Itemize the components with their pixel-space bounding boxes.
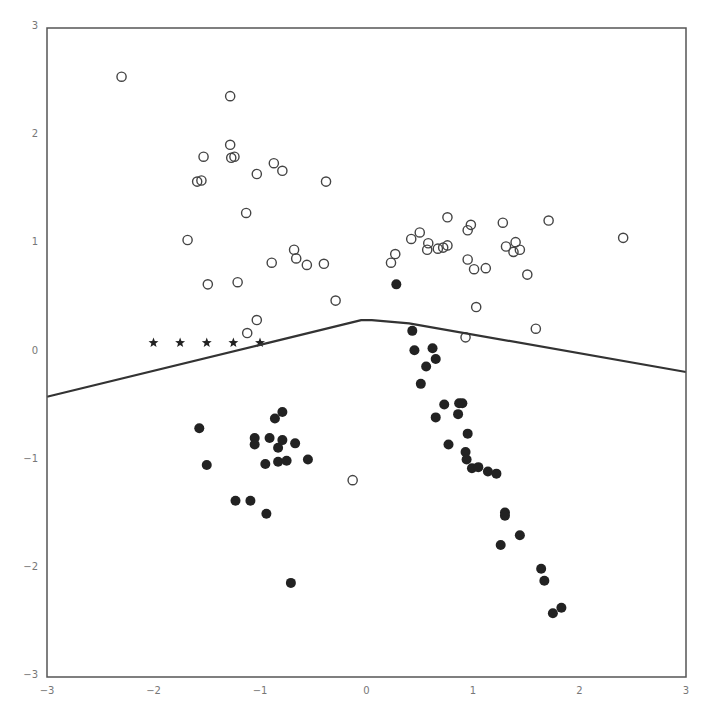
open-circle-point [443,213,452,222]
open-circle-point [463,255,472,264]
x-tick-label: −1 [253,685,268,696]
open-circle-point [230,152,239,161]
filled-circle-point [462,455,472,465]
filled-circle-point [439,399,449,409]
y-tick-label: −1 [23,453,38,464]
filled-circle-point [407,326,417,336]
filled-circle-point [473,462,483,472]
y-tick-label: 0 [32,345,38,356]
open-circle-point [391,249,400,258]
x-tick-label: 1 [470,685,476,696]
filled-circle-point [194,423,204,433]
open-circle-point [498,218,507,227]
open-circle-point [415,228,424,237]
open-circle-point [199,152,208,161]
filled-circle-point [391,279,401,289]
open-circle-point [481,264,490,273]
open-circle-point [267,258,276,267]
filled-circle-point [453,409,463,419]
open-circle-point [226,92,235,101]
scatter-chart: −3−2−10123 −3−2−10123 [0,0,714,717]
filled-circle-point [282,456,292,466]
filled-circle-point [457,398,467,408]
filled-circle-point [265,433,275,443]
open-circle-point [515,245,524,254]
filled-circle-point [548,608,558,618]
filled-circle-point [421,362,431,372]
open-circle-point [407,234,416,243]
open-circle-point [531,324,540,333]
open-circle-point [183,235,192,244]
filled-circle-point [277,435,287,445]
y-tick-label: 1 [32,236,38,247]
open-circle-point [292,254,301,263]
open-circle-point [544,216,553,225]
open-circle-point [523,270,532,279]
open-circle-point [619,233,628,242]
open-circle-point [289,245,298,254]
open-circle-point [269,159,278,168]
filled-circle-point [483,466,493,476]
x-tick-label: −3 [40,685,55,696]
filled-circle-point [428,343,438,353]
open-circle-point [197,176,206,185]
y-tick-label: 2 [32,128,38,139]
filled-circle-point [556,603,566,613]
open-circle-point [331,296,340,305]
filled-circle-point [286,578,296,588]
open-circle-point [466,220,475,229]
open-circle-point [469,265,478,274]
open-circle-point [443,241,452,250]
filled-circle-point [431,412,441,422]
filled-circle-point [515,530,525,540]
x-tick-label: 0 [363,685,369,696]
x-tick-label: −2 [146,685,161,696]
x-tick-label: 2 [576,685,582,696]
open-circle-point [472,302,481,311]
filled-circle-point [245,496,255,506]
filled-circle-point [491,469,501,479]
filled-circle-point [409,345,419,355]
y-tick-label: −2 [23,561,38,572]
filled-circle-point [539,576,549,586]
open-circle-point [252,169,261,178]
filled-circle-point [290,438,300,448]
filled-circle-point [303,455,313,465]
filled-circle-point [444,439,454,449]
open-circle-point [278,166,287,175]
y-tick-label: 3 [32,20,38,31]
open-circle-point [348,476,357,485]
open-circle-point [203,280,212,289]
open-circle-point [321,177,330,186]
filled-circle-point [277,407,287,417]
filled-circle-point [250,439,260,449]
filled-circle-point [500,511,510,521]
filled-circle-point [536,564,546,574]
open-circle-point [424,239,433,248]
open-circle-point [117,72,126,81]
filled-circle-point [273,457,283,467]
filled-circle-point [431,354,441,364]
open-circle-point [302,260,311,269]
filled-circle-point [463,429,473,439]
open-circle-point [319,259,328,268]
filled-circle-point [416,379,426,389]
filled-circle-point [261,509,271,519]
filled-circle-point [202,460,212,470]
open-circle-point [243,328,252,337]
filled-circle-point [496,540,506,550]
filled-circle-point [231,496,241,506]
open-circle-point [252,315,261,324]
filled-circle-point [260,459,270,469]
y-tick-label: −3 [23,669,38,680]
open-circle-point [233,278,242,287]
open-circle-point [226,140,235,149]
open-circle-point [386,258,395,267]
open-circle-point [242,208,251,217]
x-tick-label: 3 [683,685,689,696]
